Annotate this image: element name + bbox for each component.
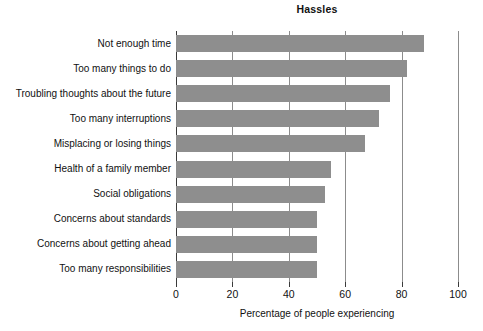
bar-row <box>176 257 458 282</box>
x-tick <box>289 282 290 287</box>
bar <box>176 211 317 228</box>
x-tick <box>458 282 459 287</box>
category-label: Concerns about getting ahead <box>4 238 176 250</box>
x-axis-title: Percentage of people experiencing <box>176 308 458 319</box>
bar <box>176 35 424 52</box>
bar-row <box>176 232 458 257</box>
category-label: Too many things to do <box>4 63 176 75</box>
bar-row <box>176 106 458 131</box>
category-label: Too many interruptions <box>4 113 176 125</box>
gridline <box>458 31 459 282</box>
bar-row <box>176 81 458 106</box>
bar-row <box>176 131 458 156</box>
bar-row <box>176 56 458 81</box>
bar-row <box>176 31 458 56</box>
bar <box>176 135 365 152</box>
x-tick-label: 80 <box>372 288 432 300</box>
bar <box>176 236 317 253</box>
bar <box>176 261 317 278</box>
bar <box>176 85 390 102</box>
x-tick <box>176 282 177 287</box>
x-tick <box>345 282 346 287</box>
category-axis-labels: Not enough timeToo many things to doTrou… <box>0 31 176 282</box>
x-axis-tick-labels: 020406080100 <box>146 288 483 304</box>
category-label: Too many responsibilities <box>4 263 176 275</box>
chart-title: Hassles <box>176 3 458 15</box>
plot-area <box>176 31 458 282</box>
bar-row <box>176 157 458 182</box>
x-tick-label: 0 <box>146 288 206 300</box>
category-label: Social obligations <box>4 188 176 200</box>
bar-row <box>176 207 458 232</box>
hassles-bar-chart: Hassles Not enough timeToo many things t… <box>0 0 483 331</box>
x-tick <box>402 282 403 287</box>
x-tick-label: 100 <box>428 288 483 300</box>
x-tick <box>232 282 233 287</box>
category-label: Not enough time <box>4 38 176 50</box>
bar <box>176 60 407 77</box>
x-tick-label: 40 <box>259 288 319 300</box>
bar <box>176 110 379 127</box>
bar-row <box>176 182 458 207</box>
category-label: Health of a family member <box>4 163 176 175</box>
bar <box>176 186 325 203</box>
category-label: Misplacing or losing things <box>4 138 176 150</box>
bar <box>176 161 331 178</box>
x-tick-label: 60 <box>315 288 375 300</box>
category-label: Troubling thoughts about the future <box>4 88 176 100</box>
category-label: Concerns about standards <box>4 213 176 225</box>
x-tick-label: 20 <box>202 288 262 300</box>
